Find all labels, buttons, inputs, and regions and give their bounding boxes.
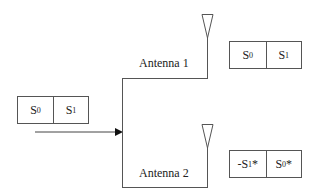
antenna-2-symbol-1: S0* [266, 151, 302, 177]
antenna-2-symbol-0: -S1* [230, 151, 266, 177]
input-symbol-1: S1 [53, 97, 88, 123]
antenna-1-label: Antenna 1 [139, 56, 189, 71]
antenna-2-icon [202, 125, 213, 149]
antenna-1-symbol-block: S0 S1 [229, 41, 302, 69]
input-symbol-block: S0 S1 [17, 96, 89, 124]
antenna-1-symbol-1: S1 [266, 42, 302, 68]
antenna-2-symbol-block: -S1* S0* [229, 150, 302, 178]
input-symbol-0: S0 [18, 97, 53, 123]
arrow-head-icon [115, 128, 123, 136]
antenna-2-label: Antenna 2 [139, 166, 189, 181]
antenna-1-symbol-0: S0 [230, 42, 266, 68]
antenna-1-icon [202, 15, 213, 39]
